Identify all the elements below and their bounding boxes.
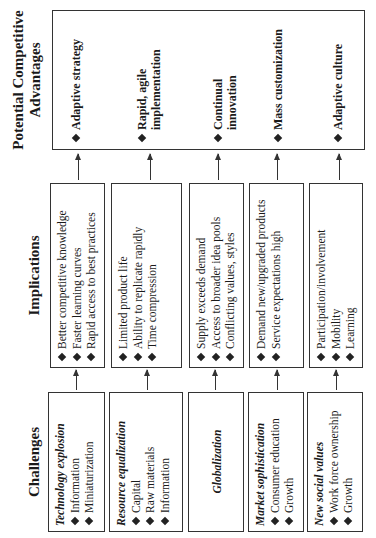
list-item: Participation/involvement: [314, 188, 329, 362]
challenge-box-resource: Resource equalization Capital Raw materi…: [109, 392, 183, 532]
list-item: Rapid access to best practices: [84, 188, 99, 362]
arrow-icon: [150, 154, 151, 180]
list-item: Faster learning curves: [70, 188, 85, 362]
advantage-line: innovation: [225, 75, 239, 130]
list-item: Conflicting values, styles: [223, 188, 238, 362]
list-item: Consumer education: [268, 397, 283, 526]
challenge-title: Market sophistication: [253, 397, 268, 526]
implication-box-2: Limited product life Ability to replicat…: [111, 183, 182, 368]
competitive-advantage-diagram: Challenges Implications Potential Compet…: [0, 0, 376, 538]
challenge-box-social: New social values Work force ownership G…: [307, 392, 363, 532]
challenge-title: Resource equalization: [114, 397, 129, 526]
header-advantages-line2: Advantages: [27, 10, 44, 150]
challenge-title: New social values: [312, 397, 327, 526]
advantage-rapid-agile: Rapid, agile implementation: [135, 17, 163, 143]
challenge-box-technology: Technology explosion Information Miniatu…: [48, 392, 105, 532]
arrow-icon: [339, 154, 340, 180]
implication-box-4: Demand new/upgraded products Service exp…: [249, 183, 304, 368]
list-item: Supply exceeds demand: [194, 188, 209, 362]
advantage-adaptive-culture: Adaptive culture: [331, 17, 345, 143]
arrow-icon: [277, 154, 278, 180]
arrow-icon: [76, 370, 77, 390]
advantage-line: implementation: [149, 49, 163, 130]
advantages-box: Adaptive strategy Rapid, agile implement…: [52, 10, 365, 150]
arrow-icon: [336, 370, 337, 390]
list-item: Service expectations high: [269, 188, 284, 362]
list-item: Learning: [343, 188, 358, 362]
arrow-icon: [277, 370, 278, 390]
list-item: Time compression: [145, 188, 160, 362]
list-item: Limited product life: [116, 188, 131, 362]
list-item: Growth: [341, 397, 356, 526]
challenge-title: Technology explosion: [53, 397, 68, 526]
advantage-mass-customization: Mass customization: [271, 17, 285, 143]
list-item: Miniaturization: [82, 397, 97, 526]
arrow-icon: [215, 370, 216, 390]
header-advantages: Potential Competitive Advantages: [10, 10, 44, 150]
list-item: Ability to replicate rapidly: [131, 188, 146, 362]
arrow-icon: [218, 154, 219, 180]
list-item: Better competitive knowledge: [55, 188, 70, 362]
header-advantages-line1: Potential Competitive: [10, 10, 27, 150]
list-item: Capital: [129, 397, 144, 526]
list-item: Growth: [282, 397, 297, 526]
list-item: Access to broader idea pools: [209, 188, 224, 362]
header-challenges: Challenges: [26, 392, 43, 532]
advantage-continual-innovation: Continual innovation: [211, 17, 239, 143]
advantage-line: Rapid, agile: [135, 69, 149, 130]
arrow-icon: [147, 370, 148, 390]
implication-box-5: Participation/involvement Mobility Learn…: [309, 183, 363, 368]
list-item: Information: [68, 397, 83, 526]
implication-box-3: Supply exceeds demand Access to broader …: [189, 183, 244, 368]
challenge-title: Globalization: [210, 430, 225, 494]
list-item: Demand new/upgraded products: [254, 188, 269, 362]
challenge-box-market: Market sophistication Consumer education…: [248, 392, 304, 532]
challenge-box-globalization: Globalization: [188, 392, 244, 532]
implication-box-1: Better competitive knowledge Faster lear…: [50, 183, 105, 368]
list-item: Raw materials: [143, 397, 158, 526]
list-item: Mobility: [329, 188, 344, 362]
header-implications: Implications: [26, 183, 43, 368]
arrow-icon: [78, 154, 79, 180]
list-item: Work force ownership: [327, 397, 342, 526]
list-item: Information: [158, 397, 173, 526]
advantage-line: Continual: [211, 79, 225, 130]
advantage-adaptive-strategy: Adaptive strategy: [69, 17, 83, 143]
